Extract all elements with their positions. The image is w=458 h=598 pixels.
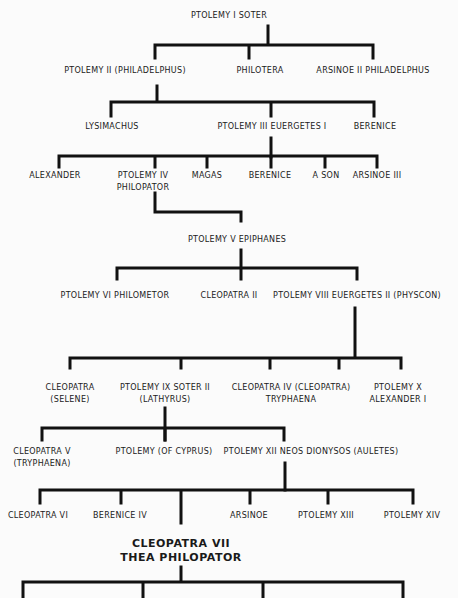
person-name-line: Ptolemy II (Philadelphus) — [64, 65, 186, 77]
person-name-line: Ptolemy XII Neos Dionysos (Auletes) — [224, 446, 399, 458]
connector-line — [59, 156, 377, 167]
person-name-line: Ptolemy IX Soter II — [120, 382, 210, 394]
person-name-line: Cleopatra V — [13, 446, 70, 458]
person-name-line: Alexander — [29, 170, 80, 182]
connector-line — [70, 358, 401, 368]
person-name-line: Philopator — [117, 182, 170, 194]
person-name-line: Ptolemy VI Philometor — [61, 290, 170, 302]
person-node-ptolemy-x: Ptolemy XAlexander I — [370, 382, 427, 406]
family-tree-diagram: Ptolemy I SoterPtolemy II (Philadelphus)… — [0, 0, 458, 598]
person-name-line: (Selene) — [46, 394, 95, 406]
person-name-line: Magas — [192, 170, 222, 182]
person-name-line: (Lathyrus) — [120, 394, 210, 406]
person-node-a-son: A Son — [313, 170, 340, 182]
person-name-line: Cleopatra IV (Cleopatra) — [232, 382, 351, 394]
person-node-alexander: Alexander — [29, 170, 80, 182]
person-node-ptolemy-cyprus: Ptolemy (of Cyprus) — [116, 446, 213, 458]
person-node-berenice-iv: Berenice IV — [93, 510, 147, 522]
person-name-line: Berenice — [249, 170, 292, 182]
person-name-line: Lysimachus — [85, 121, 139, 133]
person-name-line: Cleopatra II — [200, 290, 257, 302]
person-name-line: Ptolemy IV — [117, 170, 170, 182]
person-node-ptolemy-vi: Ptolemy VI Philometor — [61, 290, 170, 302]
person-name-line: Arsinoe — [230, 510, 268, 522]
person-name-line: Ptolemy X — [370, 382, 427, 394]
person-name-line: Berenice — [354, 121, 397, 133]
connector-line — [42, 428, 284, 440]
person-node-ptolemy-ii: Ptolemy II (Philadelphus) — [64, 65, 186, 77]
person-name-line: Ptolemy XIV — [384, 510, 440, 522]
person-node-cleopatra-ii: Cleopatra II — [200, 290, 257, 302]
person-node-lysimachus: Lysimachus — [85, 121, 139, 133]
person-node-arsinoe-iii: Arsinoe III — [353, 170, 402, 182]
person-name-line: Cleopatra VI — [8, 510, 68, 522]
person-node-arsinoe: Arsinoe — [230, 510, 268, 522]
connector-line — [117, 268, 357, 279]
person-node-cleopatra-vii: Cleopatra VIIThea Philopator — [120, 537, 241, 565]
connector-line — [23, 582, 403, 598]
person-name-line: Ptolemy V Epiphanes — [188, 234, 286, 246]
person-node-cleopatra-v: Cleopatra V(Tryphaena) — [13, 446, 70, 470]
person-node-magas: Magas — [192, 170, 222, 182]
person-node-berenice-2: Berenice — [249, 170, 292, 182]
person-node-ptolemy-iv: Ptolemy IVPhilopator — [117, 170, 170, 194]
person-node-ptolemy-viii: Ptolemy VIII Euergetes II (Physcon) — [273, 290, 441, 302]
person-node-ptolemy-v: Ptolemy V Epiphanes — [188, 234, 286, 246]
connector-line — [155, 193, 241, 221]
person-node-berenice: Berenice — [354, 121, 397, 133]
person-node-philotera: Philotera — [236, 65, 283, 77]
person-name-line: Ptolemy I Soter — [191, 10, 267, 22]
person-name-line: Arsinoe III — [353, 170, 402, 182]
person-node-ptolemy-i: Ptolemy I Soter — [191, 10, 267, 22]
person-name-line: Ptolemy (of Cyprus) — [116, 446, 213, 458]
connector-line — [111, 102, 374, 116]
person-name-line: Tryphaena — [232, 394, 351, 406]
person-node-cleopatra-vi: Cleopatra VI — [8, 510, 68, 522]
person-name-line: Cleopatra — [46, 382, 95, 394]
person-node-ptolemy-xiii: Ptolemy XIII — [298, 510, 354, 522]
person-name-line: Berenice IV — [93, 510, 147, 522]
person-node-ptolemy-iii: Ptolemy III Euergetes I — [217, 121, 326, 133]
person-node-ptolemy-ix: Ptolemy IX Soter II(Lathyrus) — [120, 382, 210, 406]
person-node-arsinoe-ii: Arsinoe II Philadelphus — [316, 65, 429, 77]
person-name-line: A Son — [313, 170, 340, 182]
person-node-cleopatra-selene: Cleopatra(Selene) — [46, 382, 95, 406]
connector-line — [155, 45, 373, 58]
person-name-line: Alexander I — [370, 394, 427, 406]
person-name-line: Thea Philopator — [120, 551, 241, 565]
person-name-line: Arsinoe II Philadelphus — [316, 65, 429, 77]
person-name-line: (Tryphaena) — [13, 458, 70, 470]
person-name-line: Cleopatra VII — [120, 537, 241, 551]
person-node-ptolemy-xii: Ptolemy XII Neos Dionysos (Auletes) — [224, 446, 399, 458]
person-node-ptolemy-xiv: Ptolemy XIV — [384, 510, 440, 522]
person-name-line: Ptolemy VIII Euergetes II (Physcon) — [273, 290, 441, 302]
person-node-cleopatra-iv: Cleopatra IV (Cleopatra)Tryphaena — [232, 382, 351, 406]
person-name-line: Ptolemy III Euergetes I — [217, 121, 326, 133]
person-name-line: Ptolemy XIII — [298, 510, 354, 522]
person-name-line: Philotera — [236, 65, 283, 77]
